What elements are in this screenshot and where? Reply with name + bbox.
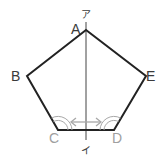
vertex-label-e: E: [146, 68, 155, 84]
vertex-label-b: B: [11, 68, 20, 84]
vertex-label-c: C: [49, 130, 59, 146]
vertex-label-d: D: [112, 130, 122, 146]
vertex-label-a: A: [71, 21, 81, 37]
axis-label-bottom: イ: [81, 145, 91, 156]
axis-label-top: ア: [81, 9, 91, 20]
pentagon-diagram: A B E C D ア イ: [0, 0, 167, 163]
